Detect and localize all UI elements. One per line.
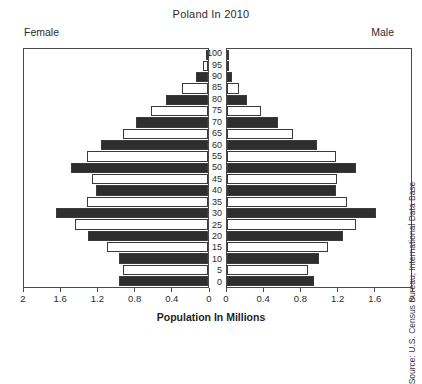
age-tick-row: 30 xyxy=(196,208,226,219)
age-label-40: 40 xyxy=(212,186,222,195)
age-tick-row: 65 xyxy=(196,128,226,139)
male-bar-age-95 xyxy=(227,61,229,71)
bar-row xyxy=(227,276,411,287)
age-label-0: 0 xyxy=(217,278,222,287)
female-x-tick xyxy=(23,288,24,292)
bar-row xyxy=(227,60,411,71)
male-bar-age-50 xyxy=(227,163,356,173)
male-bar-age-100 xyxy=(227,50,229,60)
male-bar-age-35 xyxy=(227,197,347,207)
female-x-tick xyxy=(209,288,210,292)
age-label-20: 20 xyxy=(212,232,222,241)
female-plot-panel xyxy=(23,48,209,288)
female-x-tick-label-0.4: 0.4 xyxy=(165,293,178,304)
age-label-65: 65 xyxy=(212,129,222,138)
age-label-35: 35 xyxy=(212,198,222,207)
source-note-text: Source: U.S. Census Bureau, Internationa… xyxy=(407,182,417,384)
age-label-25: 25 xyxy=(212,221,222,230)
male-bar-age-20 xyxy=(227,231,343,241)
bar-row xyxy=(24,276,208,287)
age-label-45: 45 xyxy=(212,175,222,184)
bar-row xyxy=(227,208,411,219)
bar-row xyxy=(227,128,411,139)
age-tick-row: 20 xyxy=(196,231,226,242)
male-x-tick xyxy=(337,288,338,292)
age-tick-row: 75 xyxy=(196,105,226,116)
male-x-tick xyxy=(263,288,264,292)
female-bar-age-50 xyxy=(71,163,208,173)
age-tick-row: 100 xyxy=(196,48,226,59)
chart-title: Poland In 2010 xyxy=(0,8,422,20)
bar-row xyxy=(227,140,411,151)
age-label-15: 15 xyxy=(212,243,222,252)
bar-row xyxy=(227,185,411,196)
bar-row xyxy=(24,128,208,139)
bar-row xyxy=(24,230,208,241)
male-bar-age-85 xyxy=(227,83,239,93)
male-x-tick xyxy=(226,288,227,292)
female-x-tick-label-2: 2 xyxy=(20,293,25,304)
bar-row xyxy=(227,253,411,264)
female-bar-age-10 xyxy=(119,253,208,263)
male-x-tick-label-1.2: 1.2 xyxy=(331,293,344,304)
bar-row xyxy=(227,162,411,173)
female-x-tick-label-1.2: 1.2 xyxy=(91,293,104,304)
bar-row xyxy=(24,151,208,162)
age-tick-row: 45 xyxy=(196,174,226,185)
age-tick-row: 15 xyxy=(196,242,226,253)
male-x-tick xyxy=(300,288,301,292)
x-axis-title: Population In Millions xyxy=(0,311,422,323)
male-panel-label: Male xyxy=(371,26,394,38)
bar-row xyxy=(24,174,208,185)
bar-row xyxy=(227,72,411,83)
age-label-30: 30 xyxy=(212,209,222,218)
male-x-tick-label-1.6: 1.6 xyxy=(368,293,381,304)
age-tick-row: 80 xyxy=(196,94,226,105)
bar-row xyxy=(227,106,411,117)
male-bar-age-90 xyxy=(227,72,232,82)
bar-row xyxy=(24,253,208,264)
male-bar-age-55 xyxy=(227,151,336,161)
bar-row xyxy=(24,60,208,71)
bar-row xyxy=(24,49,208,60)
bar-row xyxy=(24,208,208,219)
female-x-tick xyxy=(97,288,98,292)
female-x-tick-label-1.6: 1.6 xyxy=(54,293,67,304)
age-label-90: 90 xyxy=(212,72,222,81)
bar-row xyxy=(24,185,208,196)
female-bar-age-60 xyxy=(101,140,208,150)
bar-row xyxy=(24,140,208,151)
bar-row xyxy=(227,242,411,253)
male-x-tick-label-0.8: 0.8 xyxy=(294,293,307,304)
female-x-tick xyxy=(60,288,61,292)
bar-row xyxy=(24,83,208,94)
male-bar-age-70 xyxy=(227,117,278,127)
age-axis: 1009590858075706560555045403530252015105… xyxy=(196,48,226,288)
bar-row xyxy=(227,264,411,275)
bar-row xyxy=(227,230,411,241)
age-label-60: 60 xyxy=(212,141,222,150)
female-bar-age-35 xyxy=(87,197,208,207)
female-bar-rows xyxy=(24,49,208,287)
bar-row xyxy=(227,196,411,207)
age-tick-row: 40 xyxy=(196,185,226,196)
age-label-55: 55 xyxy=(212,152,222,161)
bar-row xyxy=(227,49,411,60)
male-bar-age-65 xyxy=(227,129,293,139)
bar-row xyxy=(227,83,411,94)
age-tick-row: 50 xyxy=(196,162,226,173)
age-label-10: 10 xyxy=(212,255,222,264)
female-bar-age-25 xyxy=(75,219,208,229)
male-bar-age-60 xyxy=(227,140,317,150)
age-label-70: 70 xyxy=(212,118,222,127)
male-bar-age-30 xyxy=(227,208,376,218)
bar-row xyxy=(227,219,411,230)
bar-row xyxy=(24,94,208,105)
female-x-tick-label-0.8: 0.8 xyxy=(128,293,141,304)
male-bar-age-25 xyxy=(227,219,356,229)
age-tick-row: 95 xyxy=(196,59,226,70)
female-bar-age-40 xyxy=(96,185,208,195)
male-x-tick xyxy=(374,288,375,292)
female-bar-age-0 xyxy=(119,276,208,286)
